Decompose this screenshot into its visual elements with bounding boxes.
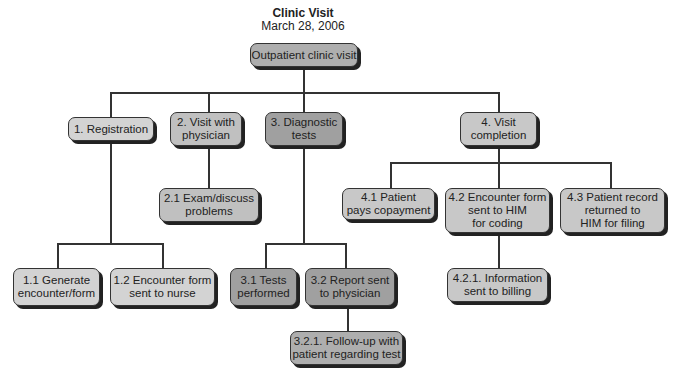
- node-3-2-report-sent: 3.2 Report sent to physician: [305, 268, 395, 306]
- connector: [303, 66, 305, 92]
- chart-date: March 28, 2006: [0, 19, 606, 33]
- node-root: Outpatient clinic visit: [250, 43, 358, 67]
- node-3-diagnostic-tests: 3. Diagnostic tests: [265, 112, 343, 146]
- node-4-3-patient-record: 4.3 Patient record returned to HIM for f…: [560, 188, 665, 233]
- connector: [265, 243, 346, 245]
- connector: [162, 243, 164, 268]
- connector: [610, 162, 612, 188]
- connector: [347, 306, 349, 331]
- connector: [498, 233, 500, 268]
- connector: [390, 162, 392, 188]
- node-1-2-encounter-nurse: 1.2 Encounter form sent to nurse: [110, 268, 215, 306]
- connector: [110, 92, 499, 94]
- node-3-1-tests-performed: 3.1 Tests performed: [230, 268, 297, 306]
- connector: [57, 243, 59, 268]
- node-2-1-exam: 2.1 Exam/discuss problems: [159, 188, 259, 222]
- connector: [390, 162, 611, 164]
- connector: [345, 243, 347, 268]
- node-1-registration: 1. Registration: [68, 117, 154, 141]
- node-4-1-copayment: 4.1 Patient pays copayment: [342, 188, 435, 220]
- chart-title: Clinic Visit: [0, 6, 606, 20]
- node-3-2-1-follow-up: 3.2.1. Follow-up with patient regarding …: [290, 331, 403, 365]
- connector: [110, 92, 112, 243]
- node-4-2-encounter-form-him: 4.2 Encounter form sent to HIM for codin…: [445, 188, 550, 233]
- connector: [265, 243, 267, 268]
- node-2-visit-physician: 2. Visit with physician: [170, 112, 242, 146]
- connector: [57, 243, 162, 245]
- node-1-1-generate-encounter: 1.1 Generate encounter/form: [13, 268, 100, 306]
- node-4-visit-completion: 4. Visit completion: [460, 112, 537, 146]
- node-4-2-1-billing: 4.2.1. Information sent to billing: [447, 268, 548, 302]
